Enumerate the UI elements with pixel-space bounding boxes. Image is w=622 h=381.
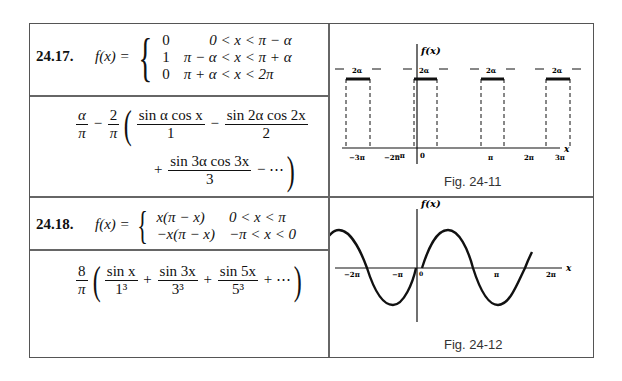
operator: + (143, 271, 151, 287)
fraction: 8π (76, 263, 88, 298)
svg-text:−π: −π (392, 270, 403, 279)
series-tail: − ⋯ (257, 161, 284, 177)
svg-text:−3π: −3π (349, 153, 365, 162)
function-lhs: f(x) = (95, 48, 130, 64)
case-value: x(π − x) (156, 209, 215, 226)
operator: − (211, 115, 219, 131)
case-value: 0 (162, 66, 170, 83)
piecewise-cases: 0 0 < x < π − α 1 π − α < x < π + α 0 π … (162, 32, 291, 83)
figure-caption: Fig. 24-12 (444, 337, 503, 352)
formula-table: 24.17. f(x) = { 0 0 < x < π − α 1 π − α … (29, 23, 594, 358)
fraction: 2π (108, 107, 120, 142)
problem-24-17-series-cont: + sin 3α cos 3x3 − ⋯) (154, 147, 298, 194)
left-paren: ( (124, 101, 132, 148)
svg-text:π: π (488, 153, 493, 162)
svg-text:2π: 2π (546, 270, 556, 279)
problem-24-18-definition: 24.18. f(x) = { x(π − x) 0 < x < π −x(π … (36, 204, 296, 248)
figure-24-11: f(x) x 0 2α 2α 2α 2α −3π −2π −π π 2π 3π (330, 24, 592, 196)
fraction: sin α cos x1 (137, 107, 205, 142)
case-value: 1 (162, 49, 170, 66)
case-condition: −π < x < 0 (229, 226, 296, 243)
svg-text:2α: 2α (552, 66, 563, 75)
svg-text:x: x (565, 263, 572, 273)
left-paren: ( (92, 257, 100, 304)
operator: − (94, 115, 102, 131)
svg-text:2α: 2α (352, 66, 363, 75)
left-brace: { (139, 36, 153, 80)
row-divider (30, 95, 328, 97)
problem-number: 24.17. (36, 48, 74, 64)
case-condition: π + α < x < 2π (184, 66, 292, 83)
svg-text:0: 0 (420, 151, 425, 160)
operator: + (204, 271, 212, 287)
piecewise-cases: x(π − x) 0 < x < π −x(π − x) −π < x < 0 (156, 209, 296, 243)
svg-text:2α: 2α (486, 66, 497, 75)
svg-text:f(x): f(x) (420, 45, 441, 56)
svg-text:f(x): f(x) (420, 198, 441, 209)
right-paren: ) (294, 257, 302, 304)
fraction: sin 5x5³ (218, 263, 258, 298)
fraction: sin x1³ (105, 263, 138, 298)
case-value: 0 (162, 32, 170, 49)
svg-text:0: 0 (419, 270, 423, 277)
svg-text:2π: 2π (524, 153, 534, 162)
fraction: sin 2α cos 2x2 (225, 107, 308, 142)
left-brace: { (138, 204, 149, 248)
problem-number: 24.18. (36, 216, 74, 232)
fraction: sin 3x3³ (158, 263, 198, 298)
figure-24-12: f(x) x 0 −2π −π π 2π (330, 197, 592, 357)
svg-text:−2π: −2π (344, 270, 360, 279)
figure-caption: Fig. 24-11 (444, 174, 502, 189)
right-paren: ) (287, 147, 295, 194)
operator: + (154, 161, 162, 177)
fraction: sin 3α cos 3x3 (168, 153, 251, 188)
function-lhs: f(x) = (95, 216, 130, 232)
svg-text:3π: 3π (555, 153, 565, 162)
problem-24-17-definition: 24.17. f(x) = { 0 0 < x < π − α 1 π − α … (36, 32, 292, 83)
svg-text:π: π (494, 270, 499, 279)
fraction: απ (76, 107, 88, 142)
case-condition: 0 < x < π (229, 209, 296, 226)
problem-24-17-series: απ − 2π(sin α cos x1 − sin 2α cos 2x2 (74, 101, 310, 148)
svg-text:−π: −π (394, 151, 405, 160)
case-value: −x(π − x) (156, 226, 215, 243)
row-divider (30, 249, 328, 251)
problem-24-18-series: 8π(sin x1³ + sin 3x3³ + sin 5x5³ + ⋯) (74, 257, 304, 304)
svg-text:2α: 2α (419, 66, 430, 75)
case-condition: 0 < x < π − α (184, 32, 292, 49)
series-tail: + ⋯ (264, 271, 291, 287)
case-condition: π − α < x < π + α (184, 49, 292, 66)
